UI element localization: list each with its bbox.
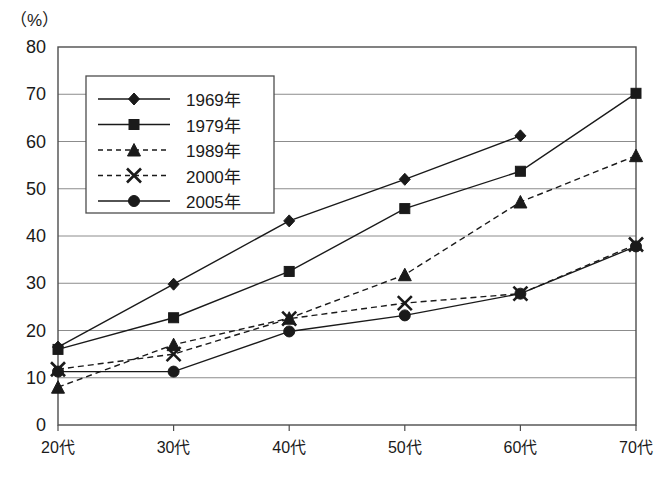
data-point-square	[631, 88, 641, 98]
data-point-square	[400, 204, 410, 214]
legend-label: 2000年	[186, 168, 241, 187]
y-tick-label: 30	[26, 273, 46, 293]
y-tick-label: 20	[26, 321, 46, 341]
legend-box	[86, 76, 274, 213]
data-point-circle	[631, 241, 642, 252]
x-tick-label: 70代	[619, 439, 653, 456]
x-tick-label: 50代	[388, 439, 422, 456]
y-tick-label: 0	[36, 415, 46, 435]
legend-label: 2005年	[186, 193, 241, 212]
legend-label: 1979年	[186, 117, 241, 136]
x-axis-tick-labels: 20代30代40代50代60代70代	[41, 425, 653, 456]
x-tick-label: 30代	[157, 439, 191, 456]
y-axis-tick-labels: 01020304050607080	[26, 37, 46, 435]
data-point-circle	[53, 366, 64, 377]
y-tick-label: 80	[26, 37, 46, 57]
y-tick-label: 50	[26, 179, 46, 199]
data-point-circle	[168, 366, 179, 377]
data-point-square	[284, 266, 294, 276]
x-tick-label: 40代	[272, 439, 306, 456]
x-tick-label: 60代	[504, 439, 538, 456]
line-chart-plot: 01020304050607080 20代30代40代50代60代70代 196…	[0, 0, 662, 478]
data-point-circle	[399, 310, 410, 321]
y-tick-label: 10	[26, 368, 46, 388]
data-point-circle	[515, 288, 526, 299]
data-point-circle	[129, 196, 140, 207]
y-tick-label: 60	[26, 132, 46, 152]
chart-container: （%） 01020304050607080 20代30代40代50代60代70代…	[0, 0, 662, 478]
data-point-square	[169, 313, 179, 323]
legend-label: 1969年	[186, 91, 241, 110]
chart-legend: 1969年1979年1989年2000年2005年	[86, 76, 274, 213]
y-tick-label: 40	[26, 226, 46, 246]
y-tick-label: 70	[26, 84, 46, 104]
data-point-circle	[284, 326, 295, 337]
data-point-square	[515, 166, 525, 176]
legend-label: 1989年	[186, 142, 241, 161]
data-point-square	[53, 344, 63, 354]
x-tick-label: 20代	[41, 439, 75, 456]
data-point-square	[129, 120, 139, 130]
